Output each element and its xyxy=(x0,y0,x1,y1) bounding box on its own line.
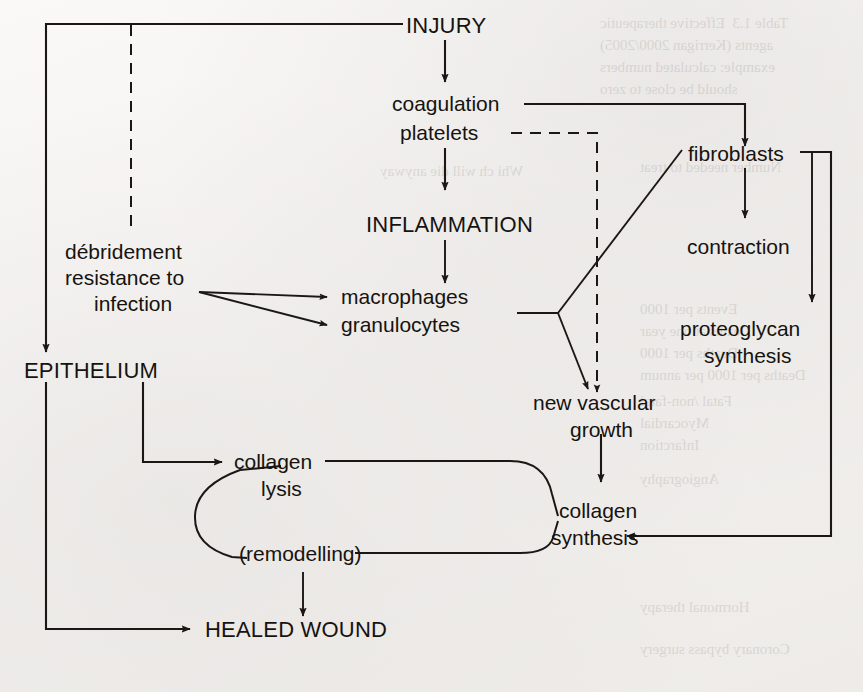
node-remodelling: (remodelling) xyxy=(239,542,362,565)
node-macrophages: macrophages xyxy=(341,285,468,308)
figure-canvas: Table 1.3 Effective therapeutic agents (… xyxy=(0,0,863,692)
node-debridement-line1: débridement xyxy=(65,240,182,263)
node-proteoglycan-synthesis-line1: proteoglycan xyxy=(680,317,800,340)
edge-collagen-synthesis-to-remodelling-loop xyxy=(355,521,558,553)
node-epithelium: EPITHELIUM xyxy=(24,358,158,383)
node-debridement-line3: infection xyxy=(94,292,172,315)
wound-healing-flowchart: INJURY coagulation platelets INFLAMMATIO… xyxy=(0,0,863,692)
node-collagen-synthesis-line1: collagen xyxy=(559,499,637,522)
node-proteoglycan-synthesis-line2: synthesis xyxy=(704,344,792,367)
node-collagen-lysis-line1: collagen xyxy=(234,450,312,473)
node-coagulation: coagulation xyxy=(392,92,499,115)
edge-epithelium-to-healed-wound xyxy=(46,382,190,629)
edge-platelets-to-new-vascular-growth-dashed xyxy=(511,133,597,392)
node-platelets: platelets xyxy=(400,121,478,144)
node-granulocytes: granulocytes xyxy=(341,313,460,336)
node-collagen-lysis-line2: lysis xyxy=(261,477,302,500)
node-contraction: contraction xyxy=(687,235,790,258)
edge-collagen-lysis-to-collagen-synthesis-loop xyxy=(325,461,558,516)
node-debridement-line2: resistance to xyxy=(65,266,184,289)
node-injury: INJURY xyxy=(406,13,486,38)
node-new-vascular-growth-line1: new vascular xyxy=(533,391,656,414)
edge-epithelium-to-collagen-lysis xyxy=(143,382,222,462)
node-new-vascular-growth-line2: growth xyxy=(570,418,633,441)
node-fibroblasts: fibroblasts xyxy=(688,142,784,165)
edge-fibroblasts-to-proteoglycan-synthesis xyxy=(800,152,812,302)
edge-coagulation-to-fibroblasts xyxy=(524,104,745,146)
edge-leukocytes-to-new-vascular-growth xyxy=(558,313,588,389)
node-healed-wound: HEALED WOUND xyxy=(205,617,387,642)
node-inflammation: INFLAMMATION xyxy=(366,212,533,237)
node-collagen-synthesis-line2: synthesis xyxy=(551,526,639,549)
edge-leukocytes-to-fibroblasts xyxy=(558,150,682,313)
